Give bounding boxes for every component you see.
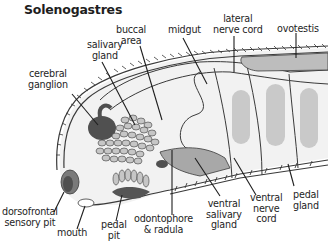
label-ventral-salivary-gland: ventral salivary gland [206,199,242,231]
label-pedal-pit: pedal pit [101,220,127,241]
label-line: & radula [134,225,193,236]
label-line: pedal [293,190,319,201]
label-line: pit [101,231,127,242]
label-ventral-nerve-cord: ventral nerve cord [250,193,283,225]
label-line: sensory pit [2,218,58,229]
label-dorsofrontal-sensory-pit: dorsofrontal sensory pit [2,207,58,228]
label-line: lateral [213,14,263,25]
gonad-lobes [232,84,318,148]
label-line: nerve cord [213,25,263,36]
label-line: pedal [101,220,127,231]
label-line: cerebral [28,69,68,80]
mouth-opening [78,199,94,207]
label-line: cord [250,214,283,225]
label-line: ventral [206,199,242,210]
label-line: gland [293,201,319,212]
label-buccal-area: buccal area [116,25,146,46]
label-midgut: midgut [168,25,201,36]
diagram-title: Solenogastres [24,2,122,17]
label-lateral-nerve-cord: lateral nerve cord [213,14,263,35]
label-line: gland [206,220,242,231]
label-line: ovotestis [277,24,319,35]
label-line: ventral [250,193,283,204]
label-line: area [116,36,146,47]
label-ovotestis: ovotestis [277,24,319,35]
label-line: ganglion [28,80,68,91]
label-line: dorsofrontal [2,207,58,218]
label-line: midgut [168,25,201,36]
label-pedal-gland: pedal gland [293,190,319,211]
label-line: mouth [57,228,87,239]
label-odontophore-radula: odontophore & radula [134,214,193,235]
label-mouth: mouth [57,228,87,239]
label-line: gland [87,51,123,62]
label-cerebral-ganglion: cerebral ganglion [28,69,68,90]
label-line: odontophore [134,214,193,225]
label-line: buccal [116,25,146,36]
